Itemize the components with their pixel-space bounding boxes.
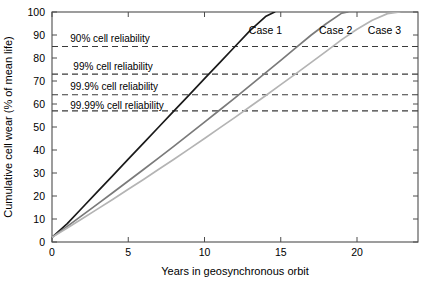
reference-line-label: 99% cell reliability	[73, 61, 152, 72]
y-tick-label: 70	[33, 75, 45, 87]
y-tick-label: 20	[33, 190, 45, 202]
series-label: Case 2	[319, 24, 352, 36]
y-tick-label: 90	[33, 29, 45, 41]
y-tick-label: 40	[33, 144, 45, 156]
x-axis-title: Years in geosynchronous orbit	[161, 265, 309, 277]
x-tick-label: 20	[351, 246, 363, 258]
reference-line-label: 90% cell reliability	[70, 33, 149, 44]
y-tick-label: 10	[33, 213, 45, 225]
y-axis-title: Cumulative cell wear (% of mean life)	[2, 36, 14, 218]
y-tick-label: 30	[33, 167, 45, 179]
y-tick-label: 80	[33, 52, 45, 64]
cumulative-cell-wear-line-chart: 05101520 0102030405060708090100 90% cell…	[0, 0, 426, 289]
chart-figure: 05101520 0102030405060708090100 90% cell…	[0, 0, 426, 289]
y-tick-label: 60	[33, 98, 45, 110]
reference-line-label: 99.99% cell reliability	[70, 100, 163, 111]
x-tick-label: 0	[49, 246, 55, 258]
series-label: Case 1	[249, 24, 282, 36]
reference-line-label: 99.9% cell reliability	[70, 81, 158, 92]
series-label: Case 3	[368, 24, 401, 36]
y-tick-label: 100	[27, 6, 45, 18]
x-tick-label: 15	[275, 246, 287, 258]
y-tick-label: 50	[33, 121, 45, 133]
x-tick-label: 5	[125, 246, 131, 258]
x-tick-label: 10	[199, 246, 211, 258]
series-labels: Case 1Case 2Case 3	[249, 24, 401, 36]
y-tick-label: 0	[39, 236, 45, 248]
